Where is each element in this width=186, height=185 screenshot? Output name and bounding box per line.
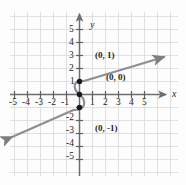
point-0-1 xyxy=(77,79,82,84)
point-0-neg1 xyxy=(77,105,82,110)
x-tick-5: 5 xyxy=(142,98,147,108)
y-tick-neg2: -2 xyxy=(66,113,74,123)
x-tick-neg4: -4 xyxy=(22,98,30,108)
coordinate-plane-figure: y x -5 -4 -3 -2 -1 1 2 3 4 5 5 4 3 2 1 -… xyxy=(0,0,186,185)
annotation-point-0-0: (0, 0) xyxy=(106,73,126,82)
x-tick-neg5: -5 xyxy=(9,98,17,108)
x-tick-2: 2 xyxy=(103,98,108,108)
annotation-point-0-1: (0, 1) xyxy=(95,51,115,60)
y-tick-neg4: -4 xyxy=(66,139,74,149)
intercept-points xyxy=(77,79,82,110)
x-tick-4: 4 xyxy=(129,98,134,108)
y-tick-neg3: -3 xyxy=(66,126,74,136)
x-axis-label: x xyxy=(172,89,176,99)
x-tick-3: 3 xyxy=(116,98,121,108)
y-tick-4: 4 xyxy=(69,38,74,48)
x-tick-neg1: -1 xyxy=(61,98,69,108)
axis-lines xyxy=(10,14,166,176)
curve-left-ray xyxy=(12,110,74,137)
x-tick-1: 1 xyxy=(90,98,95,108)
x-tick-neg3: -3 xyxy=(35,98,43,108)
x-tick-neg2: -2 xyxy=(48,98,56,108)
y-tick-5: 5 xyxy=(69,25,74,35)
y-tick-2: 2 xyxy=(69,64,74,74)
annotation-point-0-neg1: (0, -1) xyxy=(95,124,118,133)
y-axis-label: y xyxy=(90,20,94,30)
y-tick-neg5: -5 xyxy=(66,152,74,162)
point-0-0 xyxy=(77,92,82,97)
y-tick-1: 1 xyxy=(70,77,75,87)
y-tick-3: 3 xyxy=(69,51,74,61)
